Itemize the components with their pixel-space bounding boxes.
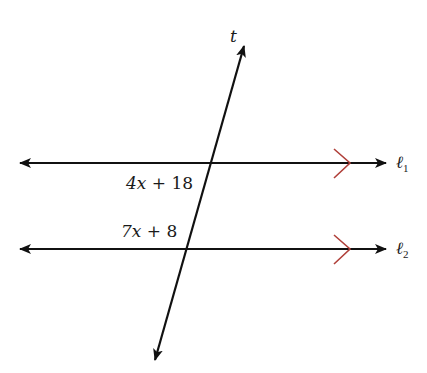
line-label-l1: ℓ1 (396, 152, 409, 174)
angle-label-2: 7x + 8 (121, 221, 177, 241)
line-l2 (20, 235, 386, 264)
diagram-canvas: t ℓ1 ℓ2 4x + 18 7x + 8 (0, 0, 427, 373)
line-label-l2: ℓ2 (396, 238, 409, 260)
transversal-t (155, 46, 244, 360)
line-l1 (20, 149, 386, 178)
transversal-label: t (230, 26, 237, 46)
angle-label-1: 4x + 18 (125, 173, 193, 193)
